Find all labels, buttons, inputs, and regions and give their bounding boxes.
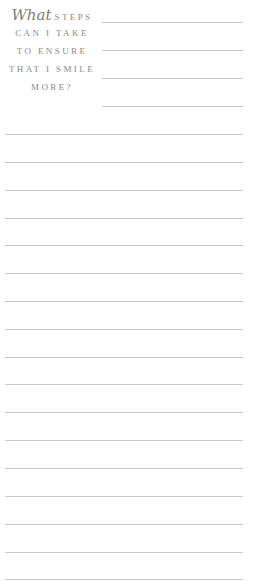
- writing-line: [5, 384, 243, 385]
- heading-line-5: MORE?: [0, 78, 104, 96]
- writing-line: [5, 329, 243, 330]
- writing-line: [5, 440, 243, 441]
- writing-line: [5, 579, 243, 580]
- heading-line-4: THAT I SMILE: [0, 60, 104, 78]
- prompt-heading: WhatSTEPS CAN I TAKE TO ENSURE THAT I SM…: [0, 6, 104, 96]
- writing-line: [5, 134, 243, 135]
- heading-line-1-text: STEPS: [55, 12, 93, 22]
- writing-line: [5, 552, 243, 553]
- writing-line: [5, 218, 243, 219]
- writing-line: [5, 190, 243, 191]
- heading-line-3: TO ENSURE: [0, 42, 104, 60]
- header-writing-line: [102, 22, 243, 23]
- writing-line: [5, 357, 243, 358]
- heading-script-word: What: [11, 6, 51, 24]
- writing-line: [5, 524, 243, 525]
- writing-line: [5, 468, 243, 469]
- writing-line: [5, 496, 243, 497]
- header-writing-line: [102, 78, 243, 79]
- writing-line: [5, 412, 243, 413]
- header-writing-line: [102, 106, 243, 107]
- heading-line-2: CAN I TAKE: [0, 24, 104, 42]
- heading-line-1: WhatSTEPS: [0, 6, 104, 24]
- writing-line: [5, 273, 243, 274]
- writing-line: [5, 162, 243, 163]
- writing-line: [5, 245, 243, 246]
- header-writing-line: [102, 50, 243, 51]
- writing-line: [5, 301, 243, 302]
